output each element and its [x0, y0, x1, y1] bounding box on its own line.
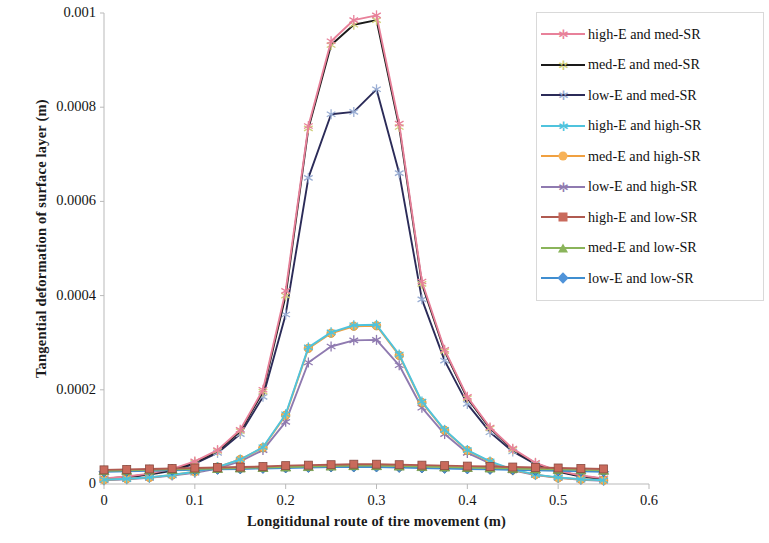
chart-container: Tangential deformation of surface layer … [0, 0, 769, 543]
data-series-group [99, 10, 609, 485]
legend-swatch-star-icon: ✲ [541, 119, 585, 133]
legend-item[interactable]: high-E and low-SR [541, 202, 759, 233]
legend-item[interactable]: ✲high-E and high-SR [541, 111, 759, 142]
legend-swatch-circle-icon [541, 149, 585, 163]
legend-label: med-E and med-SR [588, 56, 700, 73]
legend-swatch-star-icon: ✲ [541, 88, 585, 102]
series-line [100, 84, 608, 484]
legend-label: low-E and high-SR [588, 178, 698, 195]
series-line [100, 10, 608, 483]
legend-item[interactable]: med-E and high-SR [541, 141, 759, 172]
legend-label: high-E and low-SR [588, 209, 698, 226]
legend-label: low-E and low-SR [588, 270, 694, 287]
legend-label: med-E and high-SR [588, 148, 701, 165]
legend-label: high-E and high-SR [588, 117, 702, 134]
legend-swatch-diamond-icon [541, 271, 585, 285]
legend-item[interactable]: low-E and low-SR [541, 263, 759, 294]
legend-item[interactable]: ✲low-E and high-SR [541, 172, 759, 203]
legend-label: med-E and low-SR [588, 239, 697, 256]
legend-swatch-square-icon [541, 210, 585, 224]
legend-label: high-E and med-SR [588, 26, 701, 43]
legend-item[interactable]: ✲low-E and med-SR [541, 80, 759, 111]
legend-swatch-star-icon: ✲ [541, 27, 585, 41]
legend: ✲high-E and med-SR✲med-E and med-SR✲low-… [536, 12, 764, 301]
legend-item[interactable]: ✲high-E and med-SR [541, 19, 759, 50]
legend-label: low-E and med-SR [588, 87, 697, 104]
legend-swatch-star-icon: ✲ [541, 180, 585, 194]
series-line [100, 15, 608, 484]
legend-swatch-star-icon: ✲ [541, 58, 585, 72]
legend-item[interactable]: ✲med-E and med-SR [541, 50, 759, 81]
legend-item[interactable]: med-E and low-SR [541, 233, 759, 264]
legend-swatch-triangle-icon [541, 241, 585, 255]
